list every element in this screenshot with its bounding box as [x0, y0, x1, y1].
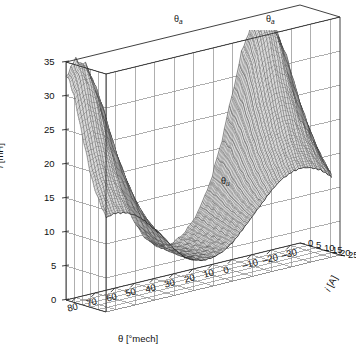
figure-3d-surface-plot: 0510152025303580706050403020100–10–20–30…: [0, 0, 356, 357]
x-tick-80: 80: [66, 300, 79, 313]
x-tick-40: 40: [144, 281, 157, 294]
annotation-theta-a-left: θa: [174, 14, 183, 25]
annotation-theta-a-right: θa: [266, 14, 275, 25]
z-tick-35: 35: [44, 56, 55, 67]
z-tick-25: 25: [44, 124, 55, 135]
annotation-theta-u: θu: [221, 176, 230, 187]
y-tick-25: 25: [348, 249, 356, 260]
z-tick-0: 0: [51, 294, 56, 305]
z-tick-30: 30: [44, 90, 55, 101]
y-tick-0: 0: [308, 237, 313, 248]
z-tick-15: 15: [44, 192, 55, 203]
z-axis-title: l [mH]: [0, 143, 5, 168]
z-tick-10: 10: [44, 226, 55, 237]
z-tick-5: 5: [51, 260, 56, 271]
x-axis-title: θ [°mech]: [118, 333, 158, 344]
y-tick-5: 5: [316, 239, 321, 250]
z-tick-20: 20: [44, 158, 55, 169]
